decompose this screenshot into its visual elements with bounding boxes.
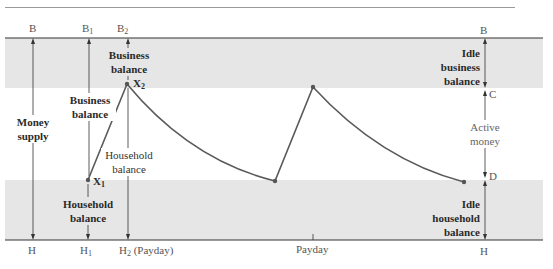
idle-business-balance-label: Idle business balance bbox=[420, 46, 480, 88]
household-balance-h2-line2: balance bbox=[101, 162, 157, 176]
business-balance-b1-label: Business balance bbox=[64, 93, 116, 121]
point-x2-label: X2 bbox=[133, 76, 145, 94]
money-supply-label: Money supply bbox=[10, 115, 56, 143]
label-b2: B2 bbox=[117, 22, 128, 36]
label-d-text: D bbox=[489, 170, 497, 182]
point-x1-text: X bbox=[93, 175, 101, 187]
business-balance-b2-line2: balance bbox=[104, 62, 154, 76]
idle-household-balance-label: Idle household balance bbox=[410, 197, 480, 239]
idle-business-line1: Idle bbox=[420, 46, 480, 60]
label-h1: H1 bbox=[80, 244, 92, 258]
label-c: C bbox=[489, 88, 496, 100]
money-supply-line1: Money bbox=[10, 115, 56, 129]
household-balance-h2-label: Household balance bbox=[101, 148, 157, 176]
money-supply-line2: supply bbox=[10, 129, 56, 143]
point-x2-text: X bbox=[133, 77, 141, 89]
active-money-label: Active money bbox=[462, 120, 508, 148]
label-h: H bbox=[28, 244, 36, 256]
point-x2-sub: 2 bbox=[141, 82, 145, 91]
point-x1-sub: 1 bbox=[101, 180, 105, 189]
label-b: B bbox=[29, 22, 36, 34]
label-h1-text: H bbox=[80, 244, 88, 256]
label-h1-sub: 1 bbox=[88, 249, 92, 258]
label-d: D bbox=[489, 170, 497, 182]
active-money-line1: Active bbox=[462, 120, 508, 134]
business-balance-b1-line2: balance bbox=[64, 107, 116, 121]
label-b2-sub: 2 bbox=[124, 27, 128, 36]
idle-household-line1: Idle bbox=[410, 197, 480, 211]
business-balance-b2-line1: Business bbox=[104, 48, 154, 62]
idle-household-line2: household bbox=[410, 211, 480, 225]
label-b-right: B bbox=[480, 24, 487, 36]
label-h-text: H bbox=[28, 244, 36, 256]
idle-household-line3: balance bbox=[410, 225, 480, 239]
active-money-line2: money bbox=[462, 134, 508, 148]
label-h2-payday: H2 (Payday) bbox=[119, 244, 173, 258]
label-b1-sub: 1 bbox=[89, 27, 93, 36]
label-payday: Payday bbox=[296, 243, 328, 255]
label-h2-sub: 2 bbox=[127, 249, 131, 258]
idle-business-line2: business bbox=[420, 60, 480, 74]
label-payday-text: Payday bbox=[296, 243, 328, 255]
label-c-text: C bbox=[489, 88, 496, 100]
label-b-right-text: B bbox=[480, 24, 487, 36]
household-balance-h1-label: Household balance bbox=[60, 197, 116, 225]
label-b-text: B bbox=[29, 22, 36, 34]
household-balance-h1-line2: balance bbox=[60, 211, 116, 225]
label-h2-note: (Payday) bbox=[134, 244, 174, 256]
label-b1: B1 bbox=[82, 22, 93, 36]
point-x1-label: X1 bbox=[93, 174, 105, 192]
idle-business-line3: balance bbox=[420, 74, 480, 88]
label-h-right: H bbox=[480, 245, 488, 257]
business-balance-b2-label: Business balance bbox=[104, 48, 154, 76]
label-h-right-text: H bbox=[480, 245, 488, 257]
household-balance-h2-line1: Household bbox=[101, 148, 157, 162]
label-h2-text: H bbox=[119, 244, 127, 256]
household-balance-h1-line1: Household bbox=[60, 197, 116, 211]
business-balance-b1-line1: Business bbox=[64, 93, 116, 107]
